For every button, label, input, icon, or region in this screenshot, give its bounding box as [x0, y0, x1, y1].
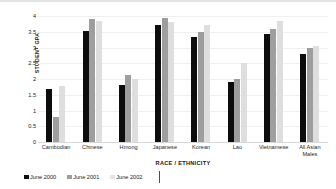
- bars: [191, 16, 211, 142]
- x-axis-title: RACE / ETHNICITY: [38, 160, 328, 166]
- x-axis-tick-label: All Asian Males: [292, 144, 328, 158]
- legend-swatch-icon: [67, 175, 72, 180]
- bar: [198, 32, 204, 142]
- bar: [228, 82, 234, 142]
- bars: [46, 16, 66, 142]
- legend: June 2000June 2001June 2002: [24, 171, 160, 183]
- bar: [313, 46, 319, 142]
- bar-groups: [38, 16, 328, 142]
- x-axis-tick-label: Hmong: [111, 144, 147, 158]
- x-axis-tick-label: Korean: [183, 144, 219, 158]
- legend-label: June 2000: [30, 174, 56, 180]
- gridline: [38, 142, 328, 143]
- bar-group: [147, 16, 183, 142]
- y-axis-tick-label: 3.5: [28, 29, 36, 35]
- bar: [53, 117, 59, 142]
- bar: [300, 54, 306, 142]
- bars: [228, 16, 248, 142]
- x-axis-tick-label: Cambodian: [38, 144, 74, 158]
- bar: [168, 22, 174, 142]
- bar: [241, 63, 247, 142]
- x-axis-tick-label: Vietnamese: [256, 144, 292, 158]
- legend-item[interactable]: June 2000: [24, 174, 56, 180]
- plot-area: [38, 16, 328, 142]
- legend-item[interactable]: June 2001: [67, 174, 99, 180]
- y-axis-tick-label: 0.5: [28, 123, 36, 129]
- bar: [270, 29, 276, 142]
- bar: [307, 48, 313, 142]
- bars: [83, 16, 103, 142]
- bars: [155, 16, 175, 142]
- bar-group: [74, 16, 110, 142]
- bar-group: [292, 16, 328, 142]
- bar-group: [111, 16, 147, 142]
- bar-group: [38, 16, 74, 142]
- y-axis-tick-label: 0: [33, 139, 36, 145]
- y-axis-tick-label: 1.5: [28, 92, 36, 98]
- y-axis-tick-label: 4: [33, 13, 36, 19]
- legend-swatch-icon: [110, 175, 115, 180]
- bar: [204, 25, 210, 142]
- legend-label: June 2002: [116, 174, 142, 180]
- bar: [59, 86, 65, 142]
- y-axis-tick-label: 3: [33, 45, 36, 51]
- y-axis-tick-label: 2.5: [28, 60, 36, 66]
- bar: [191, 37, 197, 142]
- bar-group: [219, 16, 255, 142]
- bar: [132, 79, 138, 142]
- bars: [264, 16, 284, 142]
- bar: [277, 21, 283, 142]
- bar: [162, 18, 168, 142]
- x-axis-tick-label: Lao: [219, 144, 255, 158]
- bar: [125, 75, 131, 142]
- bar: [264, 34, 270, 142]
- bar: [89, 19, 95, 142]
- bar-group: [256, 16, 292, 142]
- x-axis-tick-labels: CambodianChineseHmongJapaneseKoreanLaoVi…: [38, 144, 328, 158]
- bar: [46, 89, 52, 142]
- bars: [300, 16, 320, 142]
- legend-swatch-icon: [24, 175, 29, 180]
- y-axis-tick-label: 1: [33, 108, 36, 114]
- bar-chart: STUDENT GPA 43.532.521.510.50 CambodianC…: [0, 0, 336, 189]
- bar: [155, 25, 161, 142]
- bar: [83, 31, 89, 142]
- x-axis-tick-label: Chinese: [74, 144, 110, 158]
- bars: [119, 16, 139, 142]
- x-axis-tick-label: Japanese: [147, 144, 183, 158]
- bar: [234, 79, 240, 142]
- bar-group: [183, 16, 219, 142]
- legend-label: June 2001: [73, 174, 99, 180]
- y-axis-tick-label: 2: [33, 76, 36, 82]
- bar: [96, 21, 102, 142]
- bar: [119, 85, 125, 142]
- legend-item[interactable]: June 2002: [110, 174, 142, 180]
- y-axis-tick-labels: 43.532.521.510.50: [20, 16, 36, 142]
